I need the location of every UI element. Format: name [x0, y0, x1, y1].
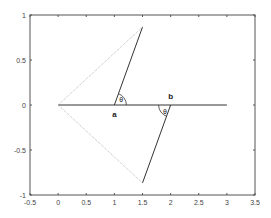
y-tick-label: 0.5 — [16, 57, 26, 64]
x-tick-label: 2.5 — [194, 199, 204, 206]
x-tick-label: 0 — [56, 199, 60, 206]
point-label: a — [112, 110, 117, 119]
x-tick-label: 1.5 — [138, 199, 148, 206]
x-tick-label: 0.5 — [81, 199, 91, 206]
theta-label: θ — [119, 96, 123, 103]
y-tick-label: -0.5 — [14, 147, 26, 154]
y-tick-label: 1 — [22, 12, 26, 19]
y-tick-label: -1 — [20, 192, 26, 199]
x-tick-label: 1 — [112, 199, 116, 206]
x-tick-label: 3.5 — [250, 199, 260, 206]
segment-a — [114, 27, 142, 105]
theta-label: θ — [163, 108, 167, 115]
point-label: b — [168, 92, 173, 101]
dotted-lower — [58, 105, 142, 183]
dotted-upper — [58, 27, 142, 105]
x-tick-label: -0.5 — [24, 199, 36, 206]
segment-b — [143, 105, 171, 183]
x-tick-label: 2 — [169, 199, 173, 206]
x-tick-label: 3 — [225, 199, 229, 206]
chart: -0.500.511.522.533.5-1-0.500.51abθθ — [0, 0, 271, 218]
y-tick-label: 0 — [22, 102, 26, 109]
